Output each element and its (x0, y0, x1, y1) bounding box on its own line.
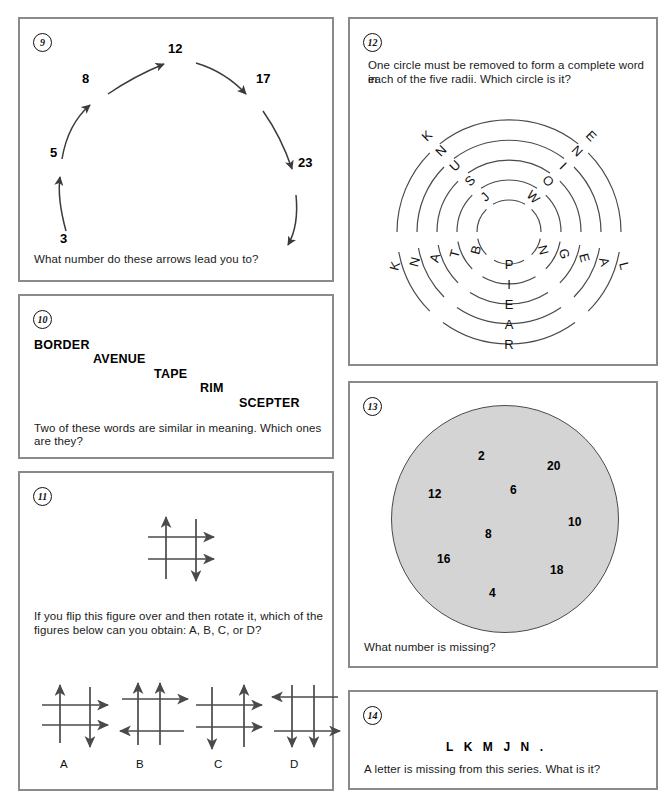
word-border: BORDER (34, 338, 90, 352)
letter-ur-2: N (569, 142, 586, 159)
concentric-letter-rings: K N U S J E N I O W K N A T B R A (392, 101, 626, 363)
letter-b-5: P (505, 257, 514, 272)
option-figure-b[interactable] (112, 675, 196, 753)
value-12: 12 (168, 41, 182, 56)
letter-ul-2: N (432, 142, 449, 159)
option-figure-d[interactable] (266, 675, 350, 753)
question-text-12-line2: each of the five radii. Which circle is … (368, 72, 650, 86)
circle-number-6: 6 (510, 483, 517, 497)
letter-b-3: E (505, 297, 514, 312)
word-tape: TAPE (154, 367, 187, 381)
word-rim: RIM (200, 381, 224, 395)
question-text-11-line2: figures below can you obtain: A, B, C, o… (34, 623, 330, 637)
circle-number-10: 10 (568, 515, 581, 529)
circle-number-2: 2 (478, 449, 485, 463)
puzzle-number-badge-14: 14 (363, 706, 382, 725)
letter-lr-5: N (535, 243, 552, 256)
letter-lr-3: E (576, 252, 593, 265)
question-text-13: What number is missing? (364, 640, 644, 654)
word-scepter: SCEPTER (239, 396, 300, 410)
panel-puzzle-12: 12 One circle must be removed to form a … (348, 17, 658, 366)
option-label-a: A (60, 758, 68, 770)
letter-ul-1: K (418, 127, 435, 144)
letter-series: L K M J N . (446, 740, 547, 754)
circle-number-12: 12 (428, 487, 441, 501)
value-3: 3 (60, 231, 67, 246)
puzzle-number-badge-10: 10 (33, 310, 52, 329)
option-label-c: C (214, 758, 222, 770)
panel-puzzle-11: 11 If you flip this figure over and then… (18, 471, 334, 791)
panel-puzzle-10: 10 BORDER AVENUE TAPE RIM SCEPTER Two of… (18, 294, 334, 459)
panel-puzzle-13: 13 2 20 12 6 10 8 16 18 4 What number is… (348, 381, 658, 668)
panel-puzzle-14: 14 L K M J N . A letter is missing from … (348, 690, 658, 790)
option-label-d: D (290, 758, 298, 770)
letter-ul-5: J (477, 189, 492, 204)
circle-number-20: 20 (547, 459, 560, 473)
puzzle-number-badge-11: 11 (33, 487, 52, 506)
question-text-11-line1: If you flip this figure over and then ro… (34, 609, 330, 623)
letter-ur-3: I (557, 159, 570, 172)
value-8: 8 (82, 71, 89, 86)
letter-lr-1: L (616, 260, 632, 271)
question-text-14: A letter is missing from this series. Wh… (364, 762, 650, 776)
puzzle-number-badge-12: 12 (363, 33, 382, 52)
word-avenue: AVENUE (93, 352, 146, 366)
option-figure-a[interactable] (36, 675, 120, 753)
shaded-circle (391, 405, 619, 633)
option-label-b: B (136, 758, 144, 770)
letter-lr-2: A (596, 256, 613, 269)
circle-number-16: 16 (437, 552, 450, 566)
circle-number-18: 18 (550, 563, 563, 577)
puzzle-number-badge-13: 13 (363, 397, 382, 416)
letter-b-1: R (504, 337, 513, 352)
letter-b-2: A (505, 317, 514, 332)
circle-number-4: 4 (489, 586, 496, 600)
panel-puzzle-9: 9 3 5 8 12 17 23 What number do these ar… (18, 17, 334, 282)
source-figure (138, 501, 238, 591)
puzzle-page: 9 3 5 8 12 17 23 What number do these ar… (0, 0, 670, 807)
value-23: 23 (298, 155, 312, 170)
letter-ur-1: E (583, 127, 600, 144)
value-5: 5 (50, 145, 57, 160)
question-text-9: What number do these arrows lead you to? (34, 252, 324, 266)
question-text-10-line1: Two of these words are similar in meanin… (34, 421, 330, 435)
letter-ul-3: U (446, 157, 463, 174)
letter-ur-4: O (539, 172, 557, 190)
option-figure-c[interactable] (190, 675, 274, 753)
value-17: 17 (256, 71, 270, 86)
letter-ll-5: B (467, 244, 484, 256)
question-text-10-line2: are they? (34, 434, 330, 448)
letter-b-4: I (507, 277, 511, 292)
letter-ul-4: S (461, 172, 478, 189)
letter-ur-5: W (524, 187, 544, 207)
circle-number-8: 8 (485, 527, 492, 541)
